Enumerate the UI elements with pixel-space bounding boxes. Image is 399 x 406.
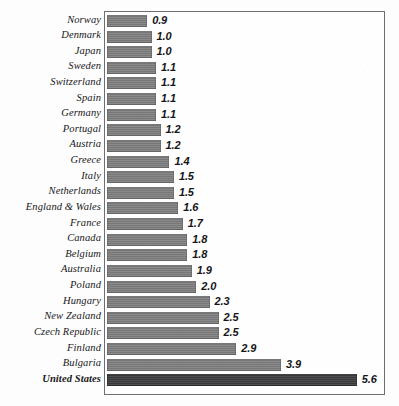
bar (107, 156, 169, 168)
bar (107, 202, 178, 214)
category-label: Finland (0, 342, 101, 354)
category-label: Spain (0, 92, 101, 104)
category-label: Sweden (0, 60, 101, 72)
category-label: Italy (0, 170, 101, 182)
category-label: United States (0, 373, 101, 385)
plot-area: 0.91.01.01.11.11.11.11.21.21.41.51.51.61… (104, 11, 385, 395)
category-label: Poland (0, 279, 101, 291)
category-label: Belgium (0, 248, 101, 260)
category-label: Portugal (0, 123, 101, 135)
bar-value-label: 1.2 (166, 139, 181, 152)
category-label: Hungary (0, 295, 101, 307)
bar-value-label: 1.0 (157, 30, 172, 43)
bar-value-label: 1.1 (161, 108, 176, 121)
category-label: Norway (0, 14, 101, 26)
category-label-column: NorwayDenmarkJapanSwedenSwitzerlandSpain… (0, 11, 101, 395)
bar-value-label: 2.3 (215, 295, 230, 308)
bar (107, 140, 161, 152)
bar-value-label: 1.2 (166, 123, 181, 136)
category-label: Canada (0, 232, 101, 244)
bar (107, 218, 183, 230)
bar (107, 31, 152, 43)
bar-value-label: 1.5 (179, 170, 194, 183)
bar-value-label: 3.9 (286, 358, 301, 371)
bar (107, 93, 156, 105)
bar-value-label: 2.9 (241, 342, 256, 355)
bar (107, 327, 219, 339)
bar (107, 249, 187, 261)
category-label: Czech Republic (0, 326, 101, 338)
category-label: New Zealand (0, 310, 101, 322)
category-label: England & Wales (0, 201, 101, 213)
bar (107, 343, 236, 355)
bar (107, 312, 219, 324)
bar-value-label: 1.1 (161, 76, 176, 89)
bar-value-label: 1.6 (183, 201, 198, 214)
bar-value-label: 1.8 (192, 248, 207, 261)
category-label: Switzerland (0, 76, 101, 88)
category-label: Austria (0, 138, 101, 150)
bar (107, 296, 210, 308)
bar-value-label: 0.9 (152, 14, 167, 27)
category-label: Japan (0, 45, 101, 57)
category-label: Australia (0, 263, 101, 275)
bar (107, 124, 161, 136)
bar (107, 281, 196, 293)
bar (107, 62, 156, 74)
bar-value-label: 1.7 (188, 217, 203, 230)
category-label: Bulgaria (0, 357, 101, 369)
bar-value-label: 1.9 (197, 264, 212, 277)
category-label: Denmark (0, 29, 101, 41)
bar-value-label: 1.8 (192, 233, 207, 246)
bar-value-label: 1.5 (179, 186, 194, 199)
bar-value-label: 2.5 (224, 326, 239, 339)
bar-value-label: 1.1 (161, 61, 176, 74)
category-label: Greece (0, 154, 101, 166)
bar-chart: NorwayDenmarkJapanSwedenSwitzerlandSpain… (0, 0, 399, 406)
bar (107, 187, 174, 199)
bar (107, 109, 156, 121)
bar (107, 359, 281, 371)
bar-value-label: 5.6 (362, 373, 377, 386)
bar-value-label: 1.4 (174, 155, 189, 168)
category-label: Germany (0, 107, 101, 119)
bar (107, 46, 152, 58)
category-label: Netherlands (0, 185, 101, 197)
bar (107, 171, 174, 183)
bar (107, 265, 192, 277)
bar-value-label: 2.5 (224, 311, 239, 324)
category-label: France (0, 217, 101, 229)
bar-value-label: 1.1 (161, 92, 176, 105)
bar (107, 15, 147, 27)
bar (107, 234, 187, 246)
bar-value-label: 2.0 (201, 280, 216, 293)
bar-highlighted (107, 374, 357, 386)
bar-value-label: 1.0 (157, 45, 172, 58)
bar (107, 77, 156, 89)
